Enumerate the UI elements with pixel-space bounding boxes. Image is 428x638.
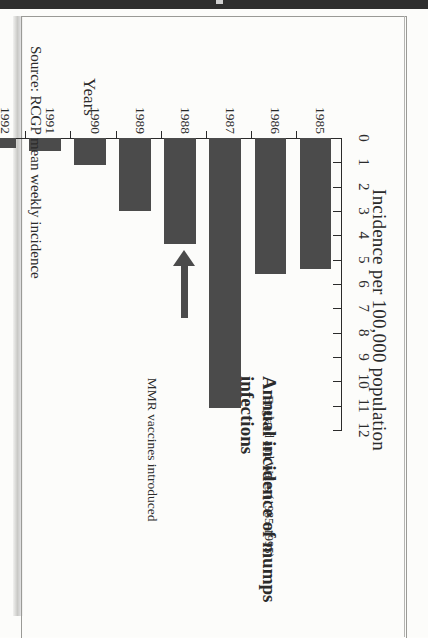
category-tick [296,131,297,139]
value-tick-label: 0 [355,125,372,151]
bar-1992 [0,138,16,148]
category-tick [25,131,26,139]
bar-1987 [210,138,242,408]
category-label-1989: 1989 [132,100,148,134]
plot-area [0,138,338,430]
category-label-1987: 1987 [222,100,238,134]
chart-subtitle: England and Wales (1985-1995) [261,396,276,558]
category-label-1985: 1985 [312,100,328,134]
value-tick-label: 5 [355,247,372,273]
category-label-1988: 1988 [177,100,193,134]
value-tick-label: 8 [355,320,372,346]
bar-1990 [74,138,106,165]
value-tick-label: 12 [355,417,372,443]
category-label-1990: 1990 [87,100,103,134]
scan-top-band [0,0,428,9]
category-tick [206,131,207,139]
arrow-shaft [181,264,188,318]
value-tick-label: 11 [355,393,372,419]
category-tick [161,131,162,139]
annotation-label: MMR vaccines introduced [144,378,160,522]
source-note: Source: RCGP mean weekly incidence [27,46,44,279]
value-tick-label: 7 [355,295,372,321]
value-tick [333,430,342,431]
value-tick-label: 2 [355,174,372,200]
value-tick-label: 4 [355,222,372,248]
bar-1989 [119,138,151,211]
category-label-1986: 1986 [267,100,283,134]
bar-1988 [164,138,196,244]
scan-band-nick [216,0,223,4]
category-label-1992: 1992 [0,100,13,134]
category-tick [70,131,71,139]
value-tick-label: 1 [355,149,372,175]
bar-1985 [300,138,332,269]
category-label-1991: 1991 [42,100,58,134]
page-border-right [404,16,405,637]
category-tick [116,131,117,139]
value-tick-label: 10 [355,368,372,394]
chart-figure: Incidence per 100,000 population 0123456… [36,20,392,620]
value-tick-label: 3 [355,198,372,224]
arrow-head [173,250,195,266]
category-tick [251,131,252,139]
bar-1986 [255,138,287,274]
value-tick-label: 9 [355,344,372,370]
value-tick-label: 6 [355,271,372,297]
